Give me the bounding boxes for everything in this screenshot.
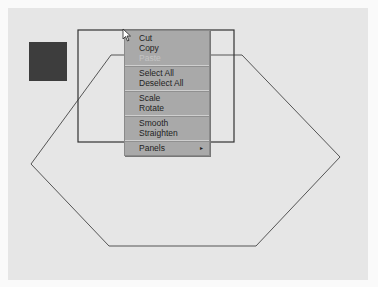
menu-item-paste: Paste <box>125 53 209 63</box>
mouse-pointer-icon <box>122 28 132 42</box>
color-swatch[interactable] <box>29 42 67 81</box>
menu-item-scale[interactable]: Scale <box>125 93 209 103</box>
menu-item-smooth[interactable]: Smooth <box>125 118 209 128</box>
menu-item-panels-label: Panels <box>139 143 165 153</box>
menu-item-copy[interactable]: Copy <box>125 43 209 53</box>
menu-item-panels[interactable]: Panels ▸ <box>125 143 209 153</box>
menu-item-select-all[interactable]: Select All <box>125 68 209 78</box>
menu-group-edit: Cut Copy Paste <box>125 31 209 66</box>
menu-group-transform: Scale Rotate <box>125 91 209 116</box>
menu-item-deselect-all[interactable]: Deselect All <box>125 78 209 88</box>
menu-item-rotate[interactable]: Rotate <box>125 103 209 113</box>
menu-group-panels: Panels ▸ <box>125 141 209 155</box>
context-menu: Cut Copy Paste Select All Deselect All S… <box>124 30 210 156</box>
submenu-arrow-icon: ▸ <box>200 143 203 153</box>
menu-item-straighten[interactable]: Straighten <box>125 128 209 138</box>
menu-group-select: Select All Deselect All <box>125 66 209 91</box>
menu-group-path: Smooth Straighten <box>125 116 209 141</box>
menu-item-cut[interactable]: Cut <box>125 33 209 43</box>
